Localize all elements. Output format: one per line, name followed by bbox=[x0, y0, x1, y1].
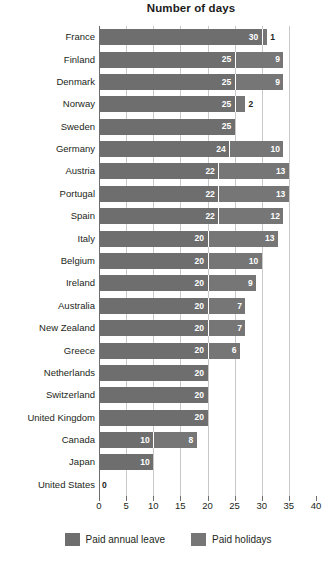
bar-row: 2010 bbox=[99, 253, 316, 269]
y-axis-label: Greece bbox=[64, 343, 95, 359]
legend-label: Paid holidays bbox=[212, 534, 271, 545]
bar-row: 2212 bbox=[99, 208, 316, 224]
bar-segment-paid-annual-leave: 20 bbox=[99, 320, 208, 336]
bar-value-label: 25 bbox=[222, 122, 235, 131]
bar-segment-paid-holidays: 10 bbox=[229, 141, 283, 157]
bar-segment-paid-holidays: 1 bbox=[262, 29, 267, 45]
y-axis-label: Sweden bbox=[61, 119, 95, 135]
bar-value-label: 0 bbox=[99, 481, 107, 490]
y-axis-label: Switzerland bbox=[46, 387, 95, 403]
bar-segment-paid-holidays: 13 bbox=[218, 163, 289, 179]
bar-segment-paid-annual-leave: 24 bbox=[99, 141, 229, 157]
bar-row: 20 bbox=[99, 387, 316, 403]
bar-segment-paid-annual-leave: 20 bbox=[99, 410, 208, 426]
bar-segment-paid-annual-leave: 20 bbox=[99, 365, 208, 381]
bar-value-label: 20 bbox=[195, 279, 208, 288]
bar-value-label: 10 bbox=[270, 145, 283, 154]
x-axis-tick-label: 15 bbox=[175, 500, 186, 511]
legend-label: Paid annual leave bbox=[86, 534, 166, 545]
bar-value-label: 10 bbox=[249, 257, 262, 266]
bar-row: 20 bbox=[99, 410, 316, 426]
bar-segment-paid-annual-leave: 22 bbox=[99, 186, 218, 202]
bar-row: 259 bbox=[99, 52, 316, 68]
bar-segment-paid-holidays: 13 bbox=[208, 231, 279, 247]
bar-value-label: 25 bbox=[222, 55, 235, 64]
bar-value-label: 22 bbox=[205, 212, 218, 221]
bar-segment-paid-annual-leave: 20 bbox=[99, 275, 208, 291]
bar-segment-paid-annual-leave: 22 bbox=[99, 163, 218, 179]
y-axis-label: Spain bbox=[71, 208, 95, 224]
y-axis-label: Netherlands bbox=[44, 365, 95, 381]
bar-segment-paid-annual-leave: 10 bbox=[99, 432, 153, 448]
bar-value-label: 22 bbox=[205, 190, 218, 199]
y-axis-label: Ireland bbox=[66, 275, 95, 291]
bar-segment-paid-annual-leave: 20 bbox=[99, 231, 208, 247]
bar-row: 207 bbox=[99, 298, 316, 314]
bar-row: 2213 bbox=[99, 163, 316, 179]
bar-segment-paid-holidays: 7 bbox=[208, 320, 246, 336]
bar-value-label: 13 bbox=[265, 234, 278, 243]
legend-item[interactable]: Paid annual leave bbox=[65, 533, 166, 546]
bar-segment-paid-holidays: 7 bbox=[208, 298, 246, 314]
x-axis-tick-label: 0 bbox=[96, 500, 101, 511]
bar-row: 301 bbox=[99, 29, 316, 45]
bar-value-label: 20 bbox=[195, 346, 208, 355]
y-axis-label: United Kingdom bbox=[27, 410, 95, 426]
bar-value-label: 8 bbox=[188, 436, 196, 445]
bar-value-label: 6 bbox=[232, 346, 240, 355]
bar-value-label: 20 bbox=[195, 324, 208, 333]
bar-segment-paid-annual-leave: 20 bbox=[99, 387, 208, 403]
bar-value-label: 24 bbox=[216, 145, 229, 154]
bar-row: 252 bbox=[99, 96, 316, 112]
y-axis-label: Portugal bbox=[60, 186, 95, 202]
bar-value-label: 2 bbox=[245, 100, 253, 109]
x-axis: 0510152025303540 bbox=[99, 496, 316, 514]
x-axis-tick-label: 40 bbox=[311, 500, 322, 511]
bar-segment-paid-annual-leave: 25 bbox=[99, 119, 235, 135]
bar-segment-paid-annual-leave: 20 bbox=[99, 298, 208, 314]
x-axis-tick-label: 35 bbox=[284, 500, 295, 511]
bar-value-label: 20 bbox=[195, 234, 208, 243]
bar-row: 20 bbox=[99, 365, 316, 381]
bar-row: 10 bbox=[99, 454, 316, 470]
bar-segment-paid-annual-leave: 25 bbox=[99, 52, 235, 68]
plot-area: 3012592592522524102213221322122013201020… bbox=[99, 26, 316, 496]
bar-segment-paid-holidays: 9 bbox=[235, 74, 284, 90]
legend-item[interactable]: Paid holidays bbox=[191, 533, 271, 546]
bar-segment-paid-holidays: 6 bbox=[208, 343, 241, 359]
bar-value-label: 9 bbox=[275, 78, 283, 87]
bar-row: 2213 bbox=[99, 186, 316, 202]
bar-value-label: 20 bbox=[195, 413, 208, 422]
y-axis-label: United States bbox=[38, 477, 95, 493]
bar-segment-paid-holidays: 12 bbox=[218, 208, 283, 224]
bar-segment-paid-holidays: 10 bbox=[208, 253, 262, 269]
bar-value-label: 13 bbox=[276, 167, 289, 176]
bar-value-label: 13 bbox=[276, 190, 289, 199]
bar-segment-paid-annual-leave: 10 bbox=[99, 454, 153, 470]
bar-segment-paid-holidays: 9 bbox=[235, 52, 284, 68]
bar-row: 206 bbox=[99, 343, 316, 359]
bar-value-label: 20 bbox=[195, 302, 208, 311]
bar-value-label: 12 bbox=[270, 212, 283, 221]
x-axis-tick-label: 5 bbox=[123, 500, 128, 511]
y-axis-label: Australia bbox=[58, 298, 95, 314]
bar-row: 259 bbox=[99, 74, 316, 90]
bar-row: 25 bbox=[99, 119, 316, 135]
bar-segment-paid-annual-leave: 20 bbox=[99, 253, 208, 269]
y-axis-label: Finland bbox=[64, 52, 95, 68]
y-axis-label: Germany bbox=[56, 141, 95, 157]
bar-segment-paid-annual-leave: 25 bbox=[99, 96, 235, 112]
bar-value-label: 20 bbox=[195, 391, 208, 400]
y-axis-label: Italy bbox=[78, 231, 95, 247]
bar-row: 2410 bbox=[99, 141, 316, 157]
bar-value-label: 30 bbox=[249, 33, 262, 42]
x-axis-tick-label: 20 bbox=[202, 500, 213, 511]
y-axis-label: Denmark bbox=[56, 74, 95, 90]
legend-swatch-icon bbox=[65, 533, 80, 546]
bar-value-label: 10 bbox=[140, 458, 153, 467]
bar-value-label: 9 bbox=[248, 279, 256, 288]
x-axis-tick-label: 10 bbox=[148, 500, 159, 511]
bar-row: 108 bbox=[99, 432, 316, 448]
bar-value-label: 20 bbox=[195, 257, 208, 266]
bar-row: 207 bbox=[99, 320, 316, 336]
